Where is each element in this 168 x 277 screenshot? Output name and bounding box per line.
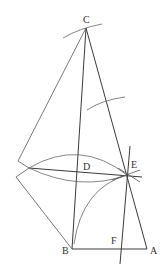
- arc-B-to-E: [74, 175, 127, 244]
- label-B: B: [62, 245, 69, 256]
- arc-near-C: [63, 24, 102, 38]
- line-EF: [120, 146, 130, 264]
- label-A: A: [150, 245, 158, 256]
- geometric-construction-diagram: C D E B F A: [0, 0, 168, 277]
- line-lens-to-left-lower: [16, 168, 29, 177]
- label-D: D: [83, 161, 90, 172]
- line-CB: [72, 28, 86, 249]
- label-C: C: [83, 14, 90, 25]
- line-left-upper-to-lens: [18, 161, 29, 168]
- label-E: E: [131, 159, 137, 170]
- diagram-canvas: C D E B F A: [0, 0, 168, 277]
- line-C-left-upper: [18, 28, 86, 161]
- line-left-lower-B: [16, 177, 72, 249]
- line-CA: [86, 28, 147, 249]
- label-F: F: [111, 235, 117, 246]
